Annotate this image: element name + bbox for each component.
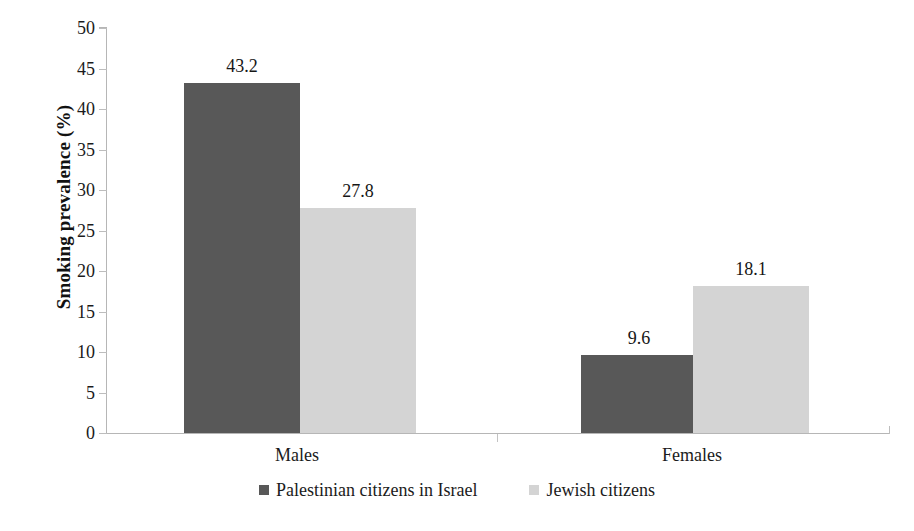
legend-item-jewish-citizens[interactable]: Jewish citizens [529, 481, 654, 499]
y-axis-tick-label: 20 [35, 262, 95, 280]
y-axis-tick [99, 433, 107, 434]
bar-value-label: 27.8 [300, 182, 416, 200]
y-axis-tick-label: 0 [35, 424, 95, 442]
y-axis-tick [99, 150, 107, 151]
bar-males-series2[interactable] [300, 208, 416, 433]
y-axis-tick [99, 352, 107, 353]
y-axis-tick [99, 28, 107, 29]
bar-females-series2[interactable] [693, 286, 809, 433]
x-axis-category-label-females: Females [612, 446, 772, 464]
y-axis-tick [99, 69, 107, 70]
y-axis-tick-label: 30 [35, 181, 95, 199]
legend-swatch-icon-dark [259, 485, 269, 495]
y-axis-tick-label: 15 [35, 303, 95, 321]
y-axis-tick [99, 190, 107, 191]
y-axis-tick [99, 231, 107, 232]
y-axis-tick [99, 271, 107, 272]
y-axis-tick [99, 393, 107, 394]
y-axis-tick-label: 40 [35, 100, 95, 118]
bar-chart: Smoking prevalence (%) 05101520253035404… [0, 0, 914, 531]
x-axis-line [107, 433, 890, 434]
y-axis-tick-label: 5 [35, 384, 95, 402]
y-axis-tick-label: 35 [35, 141, 95, 159]
plot-area [107, 28, 890, 433]
y-axis-tick-label: 50 [35, 19, 95, 37]
y-axis-tick [99, 109, 107, 110]
x-axis-category-label-males: Males [217, 446, 377, 464]
legend-label-palestinian-citizens: Palestinian citizens in Israel [276, 481, 477, 499]
y-axis-tick-label: 45 [35, 60, 95, 78]
bar-value-label: 43.2 [184, 57, 300, 75]
legend-label-jewish-citizens: Jewish citizens [546, 481, 654, 499]
bar-value-label: 9.6 [581, 329, 697, 347]
bar-value-label: 18.1 [693, 260, 809, 278]
category-divider-tick [497, 434, 498, 442]
legend-item-palestinian-citizens[interactable]: Palestinian citizens in Israel [259, 481, 477, 499]
y-axis-tick [99, 312, 107, 313]
bar-males-series1[interactable] [184, 83, 300, 433]
bar-females-series1[interactable] [581, 355, 697, 433]
chart-legend: Palestinian citizens in Israel Jewish ci… [0, 481, 914, 499]
y-axis-tick-label: 10 [35, 343, 95, 361]
y-axis-tick-label: 25 [35, 222, 95, 240]
legend-swatch-icon-light [529, 485, 539, 495]
